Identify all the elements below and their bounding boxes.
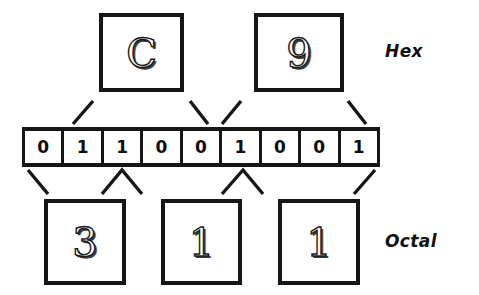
bit-cell-5[interactable]: 1 bbox=[222, 131, 261, 163]
bit-cell-0[interactable]: 0 bbox=[25, 131, 64, 163]
hex-connector-right-outer bbox=[348, 101, 366, 124]
binary-bit-strip: 0 1 1 0 0 1 0 0 1 bbox=[22, 127, 380, 167]
hex-connector-right-inner bbox=[222, 101, 241, 124]
hex-digit-value-0: C bbox=[126, 33, 157, 73]
hex-digit-box-1[interactable]: 9 bbox=[254, 13, 344, 92]
octal-connector-peak-1 bbox=[102, 170, 142, 194]
hex-digit-box-0[interactable]: C bbox=[99, 13, 184, 92]
bit-cell-4[interactable]: 0 bbox=[183, 131, 222, 163]
octal-connector-2-right bbox=[354, 170, 375, 194]
bit-cell-1[interactable]: 1 bbox=[64, 131, 103, 163]
octal-digit-value-2: 1 bbox=[306, 222, 331, 262]
hex-connector-left-outer bbox=[73, 101, 93, 124]
bit-cell-8[interactable]: 1 bbox=[341, 131, 377, 163]
octal-digit-box-0[interactable]: 3 bbox=[44, 199, 126, 285]
bit-cell-7[interactable]: 0 bbox=[301, 131, 340, 163]
hex-digit-value-1: 9 bbox=[286, 33, 311, 73]
octal-digit-value-0: 3 bbox=[72, 222, 97, 262]
octal-label: Octal bbox=[385, 231, 437, 251]
octal-connector-0-left bbox=[28, 170, 48, 194]
octal-digit-value-1: 1 bbox=[189, 222, 214, 262]
hex-connector-left-inner bbox=[190, 101, 208, 124]
bit-cell-2[interactable]: 1 bbox=[104, 131, 143, 163]
bit-cell-6[interactable]: 0 bbox=[262, 131, 301, 163]
bit-cell-3[interactable]: 0 bbox=[143, 131, 182, 163]
diagram-canvas: C 9 Hex 0 1 1 0 0 1 0 0 1 3 1 1 Octal bbox=[0, 0, 479, 295]
octal-connector-peak-2 bbox=[222, 170, 263, 194]
octal-digit-box-1[interactable]: 1 bbox=[161, 199, 242, 285]
hex-label: Hex bbox=[385, 41, 423, 61]
octal-digit-box-2[interactable]: 1 bbox=[278, 199, 360, 285]
